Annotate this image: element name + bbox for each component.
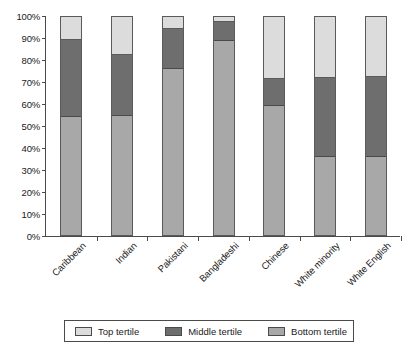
bar-segment-top <box>112 17 132 54</box>
y-axis-tick-label: 30% <box>22 165 40 176</box>
y-axis-tick-label: 70% <box>22 77 40 88</box>
y-axis-tick-label: 90% <box>22 33 40 44</box>
bar-segment-bottom <box>214 41 234 235</box>
bar-pakistani <box>162 16 184 236</box>
bar-white-minority <box>314 16 336 236</box>
bar-segment-middle <box>264 78 284 106</box>
legend-item: Top tertile <box>75 326 139 337</box>
bar-caribbean <box>60 16 82 236</box>
stacked-bar-chart: 0%10%20%30%40%50%60%70%80%90%100% Caribb… <box>0 0 417 354</box>
y-axis-tick-label: 100% <box>17 11 41 22</box>
y-axis-tick-label: 40% <box>22 143 40 154</box>
bar-segment-bottom <box>61 117 81 235</box>
legend-label: Top tertile <box>98 326 139 337</box>
bar-white-english <box>365 16 387 236</box>
bar-segment-bottom <box>112 116 132 235</box>
plot-area: 0%10%20%30%40%50%60%70%80%90%100% <box>45 16 400 237</box>
legend-label: Bottom tertile <box>291 326 347 337</box>
legend-swatch-bottom <box>268 327 285 336</box>
x-axis-label-bangladeshi: Bangladeshi <box>196 240 240 284</box>
bar-bangladeshi <box>213 16 235 236</box>
legend-item: Bottom tertile <box>268 326 347 337</box>
bar-segment-middle <box>61 39 81 117</box>
bar-segment-top <box>366 17 386 76</box>
y-axis-tick-label: 0% <box>27 231 40 242</box>
y-axis-tick-label: 20% <box>22 187 40 198</box>
bar-segment-middle <box>366 76 386 157</box>
bar-segment-top <box>163 17 183 28</box>
bar-chinese <box>263 16 285 236</box>
bar-segment-bottom <box>264 106 284 235</box>
bar-segment-top <box>315 17 335 77</box>
legend-label: Middle tertile <box>188 326 242 337</box>
legend-swatch-top <box>75 327 92 336</box>
x-axis-label-indian: Indian <box>113 240 139 266</box>
bar-segment-middle <box>214 21 234 41</box>
x-axis-label-white-english: White English <box>344 240 392 288</box>
x-axis-category-labels: CaribbeanIndianPakistaniBangladeshiChine… <box>45 240 400 310</box>
x-axis-tick <box>401 236 402 241</box>
bar-segment-middle <box>163 28 183 69</box>
bar-segment-bottom <box>163 69 183 235</box>
bar-segment-middle <box>315 77 335 157</box>
y-axis-tick-label: 50% <box>22 121 40 132</box>
bar-segment-top <box>264 17 284 78</box>
bar-segment-bottom <box>366 157 386 235</box>
bar-segment-bottom <box>315 157 335 235</box>
bar-indian <box>111 16 133 236</box>
legend-item: Middle tertile <box>165 326 242 337</box>
y-axis-tick-label: 60% <box>22 99 40 110</box>
y-axis-tick-label: 10% <box>22 209 40 220</box>
legend-swatch-middle <box>165 327 182 336</box>
bar-segment-middle <box>112 54 132 116</box>
bars-layer <box>46 16 400 236</box>
chart-legend: Top tertileMiddle tertileBottom tertile <box>64 320 354 342</box>
bar-segment-top <box>61 17 81 39</box>
x-axis-label-chinese: Chinese <box>259 240 291 272</box>
x-axis-label-white-minority: White minority <box>292 240 341 289</box>
x-axis-label-caribbean: Caribbean <box>50 240 88 278</box>
y-axis-tick-label: 80% <box>22 55 40 66</box>
x-axis-label-pakistani: Pakistani <box>155 240 189 274</box>
